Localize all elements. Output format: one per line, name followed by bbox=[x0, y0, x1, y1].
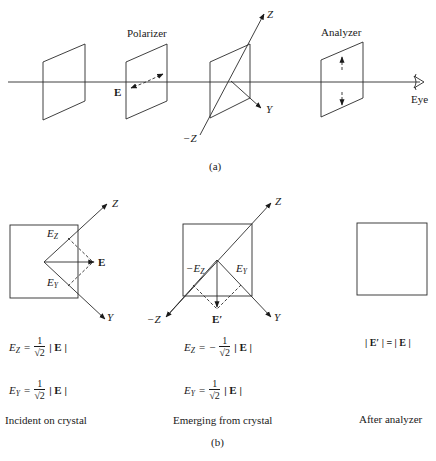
analyzer-plate bbox=[321, 42, 363, 117]
caption-b: (b) bbox=[211, 436, 224, 448]
axis-z-label: Z bbox=[267, 9, 273, 20]
p1-eq-ey: EY = 1√2 | E | bbox=[9, 378, 67, 401]
p2-eq-ez: EZ = − 1√2 | E | bbox=[184, 335, 252, 358]
panel3-square bbox=[357, 223, 427, 295]
p1-title: Incident on crystal bbox=[5, 414, 87, 426]
p3-eq: | E′ | = | E | bbox=[365, 337, 411, 348]
eye-label: Eye bbox=[411, 94, 428, 105]
p2-ey: EY bbox=[236, 263, 247, 274]
p1-axis-y: Y bbox=[107, 312, 113, 323]
crystal-plate bbox=[210, 44, 250, 118]
p2-eq-ey: EY = 1√2 | E | bbox=[184, 378, 242, 401]
analyzer-label: Analyzer bbox=[321, 27, 361, 38]
caption-a: (a) bbox=[209, 160, 221, 172]
p1-eq-ez: EZ = 1√2 | E | bbox=[9, 335, 67, 358]
p1-ez: EZ bbox=[47, 228, 58, 239]
axis-y-label: Y bbox=[266, 104, 272, 115]
p3-title: After analyzer bbox=[359, 413, 422, 425]
field-label: E bbox=[114, 87, 121, 98]
p2-title: Emerging from crystal bbox=[173, 414, 272, 426]
axis-neg-z-label: −Z bbox=[183, 133, 197, 144]
p2-axis-z: Z bbox=[275, 196, 281, 207]
p1-axis-z: Z bbox=[112, 198, 118, 209]
p2-ez: −EZ bbox=[186, 263, 204, 274]
p1-field: E bbox=[98, 257, 105, 268]
p1-ey: EY bbox=[47, 277, 58, 288]
polarizer-plate bbox=[126, 44, 167, 119]
polarizer-label: Polarizer bbox=[127, 28, 167, 39]
p2-axis-y: Y bbox=[274, 312, 280, 323]
p2-field: E′ bbox=[212, 314, 222, 325]
p2-axis-neg-z: −Z bbox=[147, 314, 161, 325]
